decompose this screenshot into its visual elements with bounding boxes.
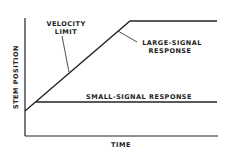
large-signal-label-2: RESPONSE xyxy=(149,47,192,55)
velocity-limit-label-1: VELOCITY xyxy=(46,20,85,28)
small-signal-label: SMALL-SIGNAL RESPONSE xyxy=(86,93,192,101)
y-axis-label: STEM POSITION xyxy=(12,45,20,109)
velocity-limit-pointer xyxy=(62,36,69,72)
x-axis-label: TIME xyxy=(111,141,131,149)
response-diagram: VELOCITY LIMIT LARGE-SIGNAL RESPONSE SMA… xyxy=(0,0,230,158)
large-signal-label-1: LARGE-SIGNAL xyxy=(142,39,202,47)
large-signal-pointer xyxy=(118,31,137,42)
velocity-limit-label-2: LIMIT xyxy=(55,28,77,36)
